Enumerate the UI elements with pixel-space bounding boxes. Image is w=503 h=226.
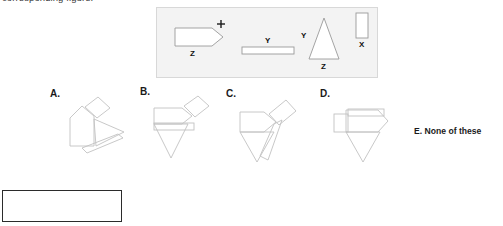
answer-box[interactable] xyxy=(2,190,122,222)
small-rectangle-label-x: X xyxy=(359,41,364,49)
triangle-label-z: Z xyxy=(321,63,326,71)
option-d-label: D. xyxy=(320,88,330,99)
option-a-label: A. xyxy=(50,88,60,99)
option-b-tilted-rect xyxy=(184,96,209,117)
option-a-bar xyxy=(82,134,123,153)
option-c-body xyxy=(240,112,276,132)
option-a-figure[interactable] xyxy=(60,96,130,158)
option-d-body xyxy=(346,110,388,132)
option-b-body xyxy=(154,108,192,124)
triangle-label-y: Y xyxy=(301,32,306,40)
tall-triangle-shape xyxy=(309,18,339,59)
thin-bar-shape xyxy=(242,47,294,54)
plus-icon xyxy=(217,20,225,28)
option-b-figure[interactable] xyxy=(148,96,220,162)
question-prompt-text: corresponding figure. xyxy=(2,0,93,3)
pentagon-label-z: Z xyxy=(190,50,195,58)
option-d-triangle xyxy=(346,132,380,162)
small-vertical-rectangle-shape xyxy=(356,13,368,38)
option-d-figure[interactable] xyxy=(332,104,406,166)
option-a-tilted-rect xyxy=(85,97,110,118)
option-c-label: C. xyxy=(226,88,236,99)
option-b-triangle xyxy=(154,124,188,158)
pentagon-block-shape xyxy=(175,28,223,46)
option-c-tilted-rect xyxy=(269,100,296,125)
thin-bar-label-y: Y xyxy=(265,37,270,45)
stimulus-panel: Z Y Y Z X xyxy=(156,7,378,78)
option-c-figure[interactable] xyxy=(236,98,308,164)
option-e-none-of-these[interactable]: E. None of these xyxy=(414,126,481,136)
